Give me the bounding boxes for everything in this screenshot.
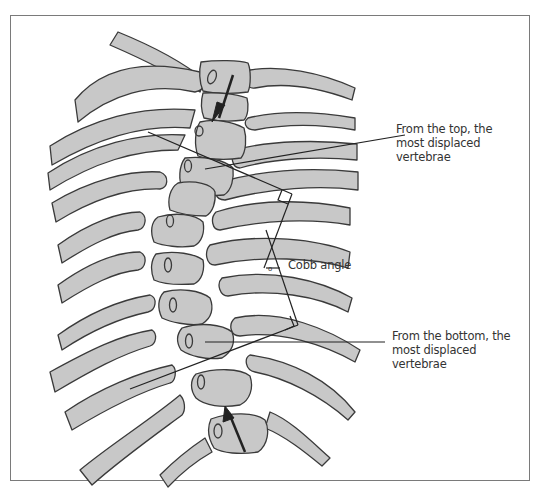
top-label-line-2: most displaced xyxy=(396,136,492,150)
right-rib-5 xyxy=(213,202,350,230)
degree-symbol: o xyxy=(268,265,272,273)
cobb-angle-label: Cobb angle xyxy=(288,258,351,272)
left-rib-11 xyxy=(160,438,212,487)
top-vertebra-label: From the top, the most displaced vertebr… xyxy=(396,122,492,164)
left-rib-6 xyxy=(58,252,145,303)
vertebra-3 xyxy=(196,120,246,159)
right-rib-9 xyxy=(246,355,355,420)
vertebra-7 xyxy=(152,252,204,284)
right-rib-1 xyxy=(247,68,355,100)
top-label-line-3: vertebrae xyxy=(396,150,492,164)
right-rib-7 xyxy=(219,274,352,312)
bottom-label-line-1: From the bottom, the xyxy=(392,329,510,343)
bottom-vertebra-label: From the bottom, the most displaced vert… xyxy=(392,329,510,371)
right-rib-2 xyxy=(245,113,355,130)
vertebra-5 xyxy=(169,182,215,216)
bottom-label-line-2: most displaced xyxy=(392,343,510,357)
right-rib-3 xyxy=(232,142,357,168)
vertebra-8 xyxy=(159,290,212,325)
vertebra-6 xyxy=(152,214,204,247)
right-rib-10 xyxy=(265,412,330,466)
top-label-line-1: From the top, the xyxy=(396,122,492,136)
spine-diagram xyxy=(0,0,541,494)
right-rib-4 xyxy=(216,170,358,200)
bottom-label-line-3: vertebrae xyxy=(392,357,510,371)
